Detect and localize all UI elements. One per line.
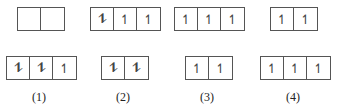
orbital-box: ↿ (209, 57, 232, 79)
orbital-box: ↿ (284, 57, 307, 79)
option-label-3: (3) (200, 90, 214, 105)
orbital-box: ↿ (175, 8, 198, 30)
orbital-box: ⥮ (91, 8, 114, 30)
orbital-diagram-1-top (17, 7, 65, 31)
orbital-box: ⥮ (7, 57, 30, 79)
orbital-diagram-4-top: ↿ ↿ (270, 7, 318, 31)
orbital-diagram-2-top: ⥮ ↿ ↿ (90, 7, 161, 31)
orbital-box (41, 8, 64, 30)
orbital-box: ⥮ (102, 57, 125, 79)
orbital-diagram-2-bottom: ⥮ ⥮ (101, 56, 149, 80)
option-label-2: (2) (116, 90, 130, 105)
orbital-box: ↿ (198, 8, 221, 30)
orbital-box: ⥮ (30, 57, 53, 79)
orbital-diagram-4-bottom: ↿ ↿ ↿ (260, 56, 331, 80)
orbital-box: ↿ (114, 8, 137, 30)
orbital-box: ↿ (221, 8, 244, 30)
orbital-box: ↿ (53, 57, 76, 79)
option-label-4: (4) (286, 90, 300, 105)
orbital-diagram-1-bottom: ⥮ ⥮ ↿ (6, 56, 77, 80)
orbital-box: ↿ (294, 8, 317, 30)
orbital-box: ↿ (271, 8, 294, 30)
orbital-diagram-3-bottom: ↿ ↿ (185, 56, 233, 80)
orbital-box (18, 8, 41, 30)
orbital-box: ↿ (261, 57, 284, 79)
orbital-box: ↿ (307, 57, 330, 79)
orbital-diagram-3-top: ↿ ↿ ↿ (174, 7, 245, 31)
option-label-1: (1) (32, 90, 46, 105)
orbital-box: ↿ (186, 57, 209, 79)
orbital-box: ⥮ (125, 57, 148, 79)
orbital-box: ↿ (137, 8, 160, 30)
